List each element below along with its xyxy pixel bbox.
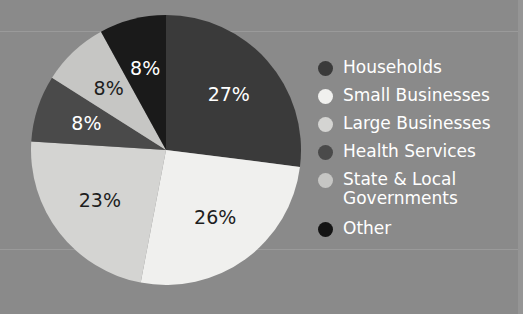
legend-item[interactable]: Large Businesses xyxy=(318,114,518,133)
legend-item-label: State & Local Governments xyxy=(343,170,458,208)
pie-slice-label: 27% xyxy=(208,83,250,105)
legend-swatch-icon xyxy=(318,61,333,76)
pie-slice-label: 8% xyxy=(71,112,101,134)
chart-canvas: 27%26%23%8%8%8% HouseholdsSmall Business… xyxy=(0,0,523,314)
legend-item-label: Health Services xyxy=(343,142,476,161)
legend-swatch-icon xyxy=(318,89,333,104)
background-right-edge xyxy=(518,0,523,314)
pie-slice-label: 26% xyxy=(194,206,236,228)
chart-legend: HouseholdsSmall BusinessesLarge Business… xyxy=(318,58,518,247)
legend-swatch-icon xyxy=(318,117,333,132)
legend-swatch-icon xyxy=(318,222,333,237)
pie-chart-svg: 27%26%23%8%8%8% xyxy=(30,14,302,286)
legend-item-label: Households xyxy=(343,58,442,77)
legend-item-label: Other xyxy=(343,219,391,238)
legend-item[interactable]: Other xyxy=(318,219,518,238)
legend-item[interactable]: State & Local Governments xyxy=(318,170,518,208)
legend-item-label: Large Businesses xyxy=(343,114,491,133)
legend-item[interactable]: Small Businesses xyxy=(318,86,518,105)
legend-swatch-icon xyxy=(318,173,333,188)
pie-chart: 27%26%23%8%8%8% xyxy=(30,14,302,286)
pie-slice-label: 8% xyxy=(130,57,160,79)
legend-item-label: Small Businesses xyxy=(343,86,490,105)
legend-swatch-icon xyxy=(318,145,333,160)
legend-item[interactable]: Households xyxy=(318,58,518,77)
pie-slice-label: 8% xyxy=(94,77,124,99)
legend-item[interactable]: Health Services xyxy=(318,142,518,161)
pie-slices-group xyxy=(31,15,301,285)
pie-slice-label: 23% xyxy=(79,189,121,211)
